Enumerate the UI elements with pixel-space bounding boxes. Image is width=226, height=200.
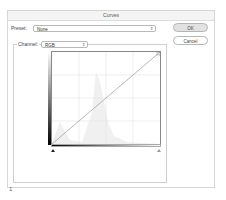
curve-graph[interactable] xyxy=(51,51,161,145)
curves-dialog: Curves Preset: None ⇕ OK Cancel Channel:… xyxy=(7,10,215,188)
stepper-icon: ⇕ xyxy=(81,43,86,47)
ok-button[interactable]: OK xyxy=(173,23,208,32)
dialog-title: Curves xyxy=(8,11,214,21)
page-number: 1 xyxy=(9,186,12,192)
black-point-slider-icon[interactable] xyxy=(51,149,55,152)
preset-value: None xyxy=(37,27,48,32)
channel-label: Channel: xyxy=(17,41,39,48)
preset-label: Preset: xyxy=(11,25,27,32)
cancel-button[interactable]: Cancel xyxy=(173,36,208,45)
white-point-slider-icon[interactable] xyxy=(157,149,161,152)
stepper-icon: ⇕ xyxy=(149,27,154,31)
preset-dropdown[interactable]: None ⇕ xyxy=(33,25,156,32)
channel-value: RGB xyxy=(45,43,55,48)
input-gradient-bar xyxy=(51,144,161,147)
channel-dropdown[interactable]: RGB ⇕ xyxy=(41,41,88,48)
histogram-and-curve xyxy=(52,52,160,144)
